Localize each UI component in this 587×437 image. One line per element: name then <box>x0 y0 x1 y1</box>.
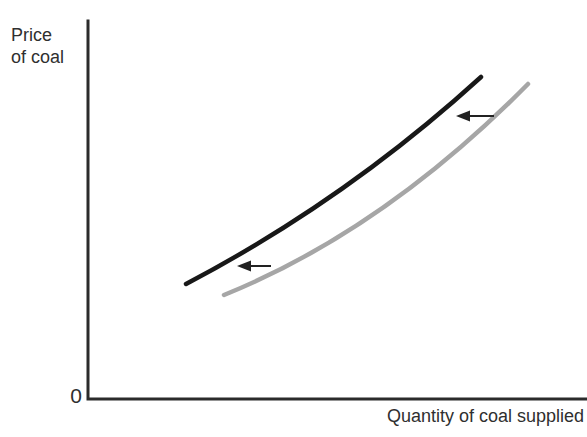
axes <box>88 21 587 399</box>
shift-arrow-lower <box>237 261 271 272</box>
plot-area <box>0 0 587 437</box>
supply-shift-figure: Price of coal 0 Quantity of coal supplie… <box>0 0 587 437</box>
shift-arrow-lower-head <box>237 261 251 272</box>
supply-curve-shifted <box>186 77 481 284</box>
shift-arrow-upper-head <box>456 111 470 122</box>
